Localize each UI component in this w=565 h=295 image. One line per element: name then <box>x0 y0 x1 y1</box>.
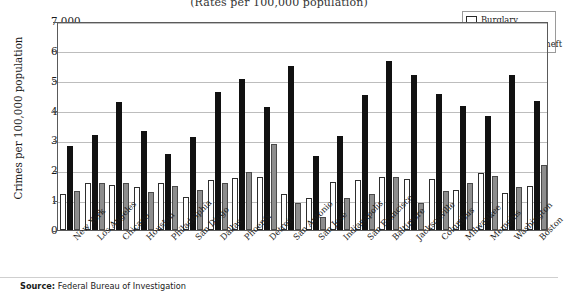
bar-group <box>107 23 132 230</box>
source-note: Source: Federal Bureau of Investigation <box>20 281 186 291</box>
bar-group <box>230 23 255 230</box>
source-divider <box>0 277 558 278</box>
bar-larceny <box>411 75 417 230</box>
chart-title: (Rates per 100,000 population) <box>0 0 558 9</box>
bar-group <box>524 23 549 230</box>
bar-group <box>156 23 181 230</box>
bar-larceny <box>239 79 245 230</box>
bar-group <box>451 23 476 230</box>
bar-group <box>254 23 279 230</box>
bar-group <box>353 23 378 230</box>
bar-group <box>500 23 525 230</box>
bar-group <box>475 23 500 230</box>
bar-group <box>205 23 230 230</box>
bar-group <box>58 23 83 230</box>
bar-group <box>426 23 451 230</box>
bar-larceny <box>386 61 392 230</box>
bar-motor-vehicle-theft <box>246 172 252 230</box>
bar-group <box>328 23 353 230</box>
source-label: Source: <box>20 281 55 291</box>
bar-larceny <box>288 66 294 230</box>
bar-group <box>304 23 329 230</box>
y-axis-title: Crimes per 100,000 population <box>12 6 24 230</box>
bar-group <box>132 23 157 230</box>
bar-group <box>377 23 402 230</box>
bar-group <box>83 23 108 230</box>
bar-motor-vehicle-theft <box>172 186 178 230</box>
bar-group <box>181 23 206 230</box>
bar-motor-vehicle-theft <box>74 191 80 230</box>
bar-burglary <box>60 194 66 230</box>
source-value: Federal Bureau of Investigation <box>55 281 186 291</box>
bar-larceny <box>67 146 73 230</box>
bar-motor-vehicle-theft <box>541 165 547 230</box>
bar-group <box>279 23 304 230</box>
